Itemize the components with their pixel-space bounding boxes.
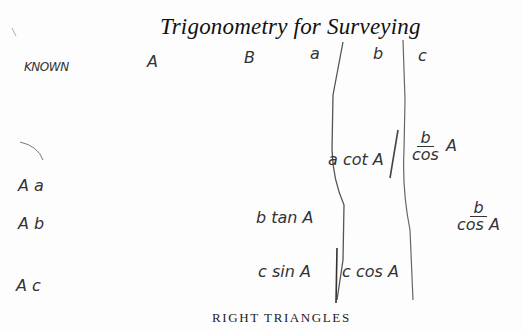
column-header-b: b [373, 44, 383, 63]
page-caption: RIGHT TRIANGLES [212, 310, 351, 326]
row-known-Aa: A a [18, 176, 44, 195]
cell-b-a-cot-A: a cot A [328, 150, 384, 169]
column-header-a: a [310, 44, 320, 63]
cell-c-b-over-cos-A: b cos A [410, 130, 457, 163]
cell-b-c-cos-A: c cos A [342, 262, 399, 281]
cell-c-b-over-cos-A: b cos A [455, 200, 502, 233]
cell-a-b-tan-A: b tan A [256, 208, 314, 227]
column-header-A: A [147, 52, 158, 71]
column-header-c: c [418, 46, 427, 65]
hand-drawn-column-dividers [0, 0, 522, 332]
known-header: KNOWN [24, 60, 69, 74]
cell-a-c-sin-A: c sin A [258, 262, 311, 281]
row-known-Ac: A c [16, 276, 41, 295]
row-known-Ab: A b [18, 214, 44, 233]
column-header-B: B [244, 48, 255, 67]
